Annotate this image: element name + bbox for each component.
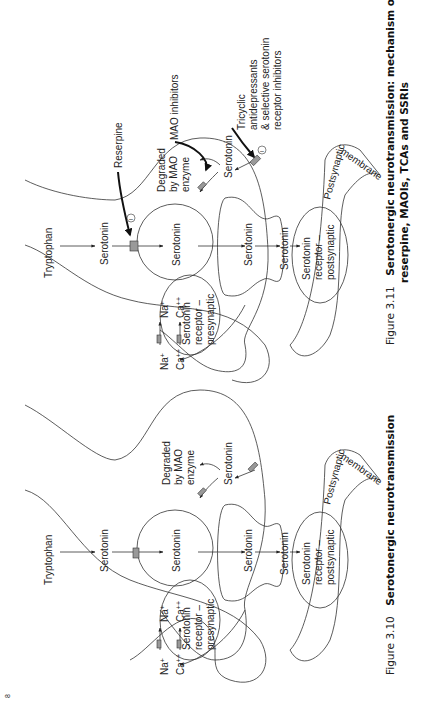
label-tca-4: receptor inhibitors	[272, 51, 283, 130]
label-serotonin-reuptake: Serotonin	[223, 442, 234, 485]
label-ca-out: Ca++	[175, 349, 186, 370]
vesicle-transporter-icon	[133, 548, 139, 558]
label-post-receptor-2: receptor –	[313, 235, 324, 280]
presynaptic-neuron-outline	[25, 245, 269, 383]
label-degraded-3: enzyme	[180, 157, 191, 192]
label-degraded-1: Degraded	[156, 148, 167, 192]
reuptake-channel-icon	[198, 182, 206, 190]
label-pre-receptor-1: Serotonin	[181, 302, 192, 345]
label-post-receptor-2: receptor –	[313, 540, 324, 585]
label-mao-inhibitors: MAO inhibitors	[169, 74, 180, 140]
figure-3-11: – – Tryptophan Serotonin Serotonin Reser…	[25, 0, 410, 383]
label-na-out: Na+	[159, 658, 170, 675]
label-serotonin-presynaptic: Serotonin	[99, 222, 110, 265]
figure-3-11-caption-line2: reserpine, MAOIs, TCAs and SSRIs	[398, 82, 410, 283]
figure-3-10-caption: Figure 3.10 Serotonergic neurotransmissi…	[380, 415, 397, 675]
sodium-channel-icon	[157, 335, 161, 343]
sodium-channel-icon	[157, 640, 161, 648]
label-serotonin-cleft: Serotonin	[279, 532, 290, 575]
label-post-receptor-3: postsynaptic	[325, 224, 336, 280]
label-pre-receptor-2: receptor –	[193, 605, 204, 650]
label-degraded-1: Degraded	[161, 441, 172, 485]
label-serotonin-reuptake: Serotonin	[223, 135, 234, 178]
label-tryptophan: Tryptophan	[43, 228, 54, 278]
page-canvas: Tryptophan Serotonin Serotonin Degraded …	[0, 0, 426, 701]
label-pre-receptor-3: presynaptic	[205, 294, 216, 345]
label-serotonin-release: Serotonin	[243, 529, 254, 572]
label-tca-1: Tricyclic	[236, 94, 247, 130]
label-serotonin-cleft: Serotonin	[279, 227, 290, 270]
figure-3-10: Tryptophan Serotonin Serotonin Degraded …	[25, 390, 397, 682]
label-tca-3: & selective serotonin	[260, 38, 271, 130]
label-na-out: Na+	[159, 353, 170, 370]
label-degraded-2: by MAO	[173, 449, 184, 485]
reserpine-arrow	[118, 172, 130, 235]
label-degraded-2: by MAO	[168, 156, 179, 192]
label-pre-receptor-2: receptor –	[193, 300, 204, 345]
vesicle-transporter-icon	[130, 241, 138, 251]
label-reserpine: Reserpine	[113, 122, 124, 168]
label-degraded-3: enzyme	[185, 450, 196, 485]
label-serotonin-presynaptic: Serotonin	[99, 529, 110, 572]
label-post-receptor-1: Serotonin	[301, 237, 312, 280]
label-serotonin-vesicle: Serotonin	[171, 223, 182, 266]
label-ca-out: Ca++	[175, 654, 186, 675]
label-serotonin-vesicle: Serotonin	[171, 529, 182, 572]
inhibit-minus-reserpine: –	[129, 215, 133, 222]
reuptake-channel-icon	[198, 488, 206, 496]
label-post-receptor-3: postsynaptic	[325, 529, 336, 585]
serotonin-transporter-icon	[250, 155, 261, 166]
label-tca-2: antidepressants	[248, 59, 259, 130]
label-post-receptor-1: Serotonin	[301, 542, 312, 585]
page-number: 8	[4, 694, 11, 698]
label-na-in: Na+	[159, 301, 170, 318]
label-serotonin-release: Serotonin	[243, 223, 254, 266]
ssri-arrow	[232, 128, 254, 157]
label-pre-receptor-3: presynaptic	[205, 599, 216, 650]
inhibit-minus-ssri: –	[260, 147, 264, 154]
presynaptic-neuron-outline	[25, 490, 266, 682]
label-na-in: Na+	[159, 605, 170, 622]
label-pre-receptor-1: Serotonin	[181, 607, 192, 650]
label-tryptophan: Tryptophan	[43, 535, 54, 585]
